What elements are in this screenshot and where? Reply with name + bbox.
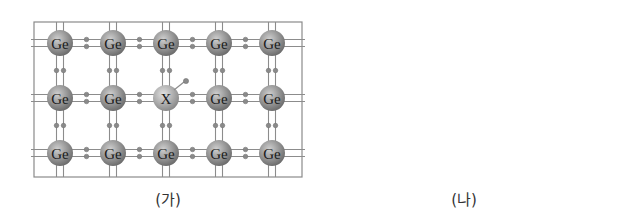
valence-electron: [190, 147, 195, 152]
ge-atom: Ge: [259, 140, 285, 166]
valence-electron: [167, 123, 172, 128]
valence-electron: [137, 44, 142, 49]
valence-electron: [107, 68, 112, 73]
valence-electron: [84, 154, 89, 159]
valence-electron: [167, 68, 172, 73]
valence-electron: [61, 68, 66, 73]
valence-electron: [61, 123, 66, 128]
valence-electron: [243, 44, 248, 49]
atom-label: Ge: [263, 91, 281, 107]
valence-electron: [243, 154, 248, 159]
extra-electron: [183, 78, 188, 83]
ge-atom: Ge: [47, 140, 73, 166]
valence-electron: [160, 123, 165, 128]
crystal-lattice-na: GeGeGeGeGeGeGeYGeGeGeGeGeGeGe: [296, 0, 609, 220]
valence-electron: [114, 123, 119, 128]
valence-electron: [190, 99, 195, 104]
valence-electron: [84, 147, 89, 152]
panel-na: GeGeGeGeGeGeGeYGeGeGeGeGeGeGe: [296, 0, 609, 220]
atom-label: Ge: [210, 91, 228, 107]
valence-electron: [190, 37, 195, 42]
caption-na: (나): [424, 188, 504, 209]
ge-atom: Ge: [153, 30, 179, 56]
ge-atom: Ge: [206, 85, 232, 111]
valence-electron: [54, 68, 59, 73]
atom-label: Ge: [263, 146, 281, 162]
caption-ga: (가): [128, 188, 208, 209]
valence-electron: [160, 68, 165, 73]
ge-atom: Ge: [153, 140, 179, 166]
atom-label: Ge: [263, 36, 281, 52]
panel-ga: GeGeGeGeGeGeGeXGeGeGeGeGeGeGe: [0, 0, 313, 220]
ge-atom: Ge: [47, 30, 73, 56]
valence-electron: [84, 92, 89, 97]
extra-electron-bond: [174, 82, 184, 90]
atom-label: Ge: [210, 36, 228, 52]
ge-atom: Ge: [206, 140, 232, 166]
atom-label: Ge: [104, 91, 122, 107]
valence-electron: [220, 68, 225, 73]
ge-atom: Ge: [100, 30, 126, 56]
ge-atom: Ge: [259, 85, 285, 111]
valence-electron: [84, 44, 89, 49]
atom-label: X: [161, 91, 172, 107]
valence-electron: [190, 92, 195, 97]
atom-label: Ge: [51, 91, 69, 107]
valence-electron: [220, 123, 225, 128]
atom-label: Ge: [157, 36, 175, 52]
valence-electron: [84, 99, 89, 104]
valence-electron: [243, 147, 248, 152]
valence-electron: [137, 99, 142, 104]
valence-electron: [243, 99, 248, 104]
valence-electron: [137, 154, 142, 159]
valence-electron: [107, 123, 112, 128]
atom-label: Ge: [104, 146, 122, 162]
atom-label: Ge: [51, 146, 69, 162]
valence-electron: [266, 123, 271, 128]
valence-electron: [137, 37, 142, 42]
valence-electron: [273, 123, 278, 128]
valence-electron: [243, 92, 248, 97]
crystal-lattice-ga: GeGeGeGeGeGeGeXGeGeGeGeGeGeGe: [0, 0, 313, 220]
ge-atom: Ge: [259, 30, 285, 56]
valence-electron: [213, 123, 218, 128]
valence-electron: [190, 44, 195, 49]
valence-electron: [213, 68, 218, 73]
valence-electron: [190, 154, 195, 159]
ge-atom: Ge: [206, 30, 232, 56]
atom-label: Ge: [51, 36, 69, 52]
ge-atom: Ge: [47, 85, 73, 111]
valence-electron: [137, 147, 142, 152]
valence-electron: [266, 68, 271, 73]
valence-electron: [114, 68, 119, 73]
valence-electron: [137, 92, 142, 97]
valence-electron: [54, 123, 59, 128]
valence-electron: [273, 68, 278, 73]
ge-atom: Ge: [100, 85, 126, 111]
valence-electron: [84, 37, 89, 42]
atom-label: Ge: [104, 36, 122, 52]
valence-electron: [243, 37, 248, 42]
ge-atom: Ge: [100, 140, 126, 166]
atom-label: Ge: [157, 146, 175, 162]
atom-label: Ge: [210, 146, 228, 162]
